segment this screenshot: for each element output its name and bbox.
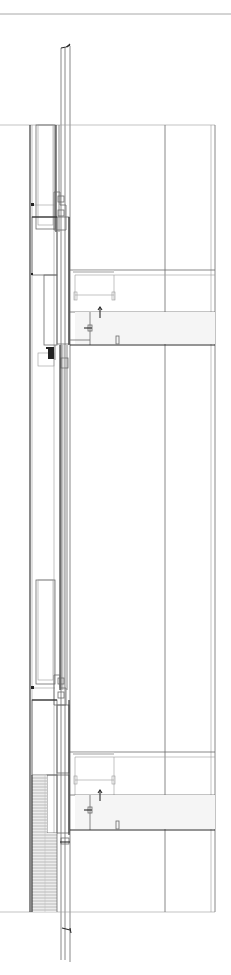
- brick-cladding: [32, 775, 57, 912]
- blind-mechanism: [38, 345, 68, 368]
- upper-floor-slab: [70, 270, 215, 345]
- lower-floor-slab: [70, 752, 215, 830]
- wall-section-drawing: [0, 0, 231, 975]
- upper-insulation: [31, 217, 69, 345]
